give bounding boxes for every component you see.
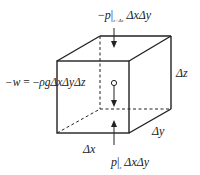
cube-top-left-edge bbox=[57, 36, 100, 61]
top-pressure-arrow-icon bbox=[111, 28, 117, 48]
dy-label: Δy bbox=[152, 125, 164, 137]
weight-arrow-icon bbox=[111, 80, 117, 107]
cube-top-right-edge bbox=[129, 36, 171, 61]
top-pressure-label: −p|z+Δz ΔxΔy bbox=[98, 9, 151, 21]
dz-label: Δz bbox=[176, 67, 188, 79]
diagram-canvas: −p|z+Δz ΔxΔy −w = −ρgΔxΔyΔz Δz Δy Δx p|z… bbox=[0, 0, 200, 175]
weight-label: −w = −ρgΔxΔyΔz bbox=[5, 77, 85, 89]
cube-bottom-right-edge bbox=[129, 109, 171, 133]
dx-label: Δx bbox=[83, 143, 95, 155]
cube-front-face bbox=[57, 61, 129, 133]
bottom-pressure-label: p|z ΔxΔy bbox=[111, 156, 149, 168]
